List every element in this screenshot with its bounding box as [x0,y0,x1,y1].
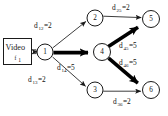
node-6[interactable]: 6 [143,82,160,99]
source-video-box: Video f 1 [4,39,32,65]
node-4[interactable]: 4 [94,44,111,61]
edge-label-d14-sym: d [57,63,61,72]
node-5[interactable]: 5 [143,11,160,28]
edge-label-d13: d 13 =2 [28,75,46,85]
edge-label-d45: d 45 =5 [119,41,137,51]
node-3-label: 3 [93,86,97,94]
node-4-label: 4 [100,48,104,56]
node-5-label: 5 [149,15,153,23]
edge-label-d45-sym: d [119,41,123,50]
edge-label-d12-val: =2 [44,21,52,30]
figure-canvas: Video f 1 1 2 3 [0,0,168,116]
node-6-label: 6 [149,86,153,94]
edge-label-d25-sym: d [112,3,116,12]
edge-label-d14-val: =5 [67,63,75,72]
node-1[interactable]: 1 [37,44,53,60]
edge-label-d25: d 25 =2 [112,3,130,13]
edge-label-d25-val: =2 [122,3,130,12]
source-box-label: Video [6,43,26,52]
edge-label-d46-sym: d [119,58,123,67]
edge-1-to-2 [53,22,86,48]
edge-label-d14: d 14 =5 [57,63,75,73]
edge-label-d45-val: =5 [129,41,137,50]
edge-label-d46: d 46 =5 [119,58,137,68]
edge-label-d12-sym: d [34,21,38,30]
edge-label-d36: d 36 =2 [113,97,131,107]
source-box-sublabel: f [15,55,17,61]
graph-diagram: Video f 1 1 2 3 [0,0,168,116]
edge-label-d13-sym: d [28,75,32,84]
node-2-label: 2 [93,14,97,22]
node-1-label: 1 [43,48,47,56]
edge-label-d12: d 12 =2 [34,21,52,31]
source-box-sub-index: 1 [18,57,21,63]
edge-label-d13-val: =2 [38,75,46,84]
node-2[interactable]: 2 [87,10,103,26]
edge-2-to-5 [103,16,141,17]
node-3[interactable]: 3 [87,82,103,98]
edge-label-d46-val: =5 [129,58,137,67]
edge-label-d36-sym: d [113,97,117,106]
edge-label-d36-val: =2 [123,97,131,106]
